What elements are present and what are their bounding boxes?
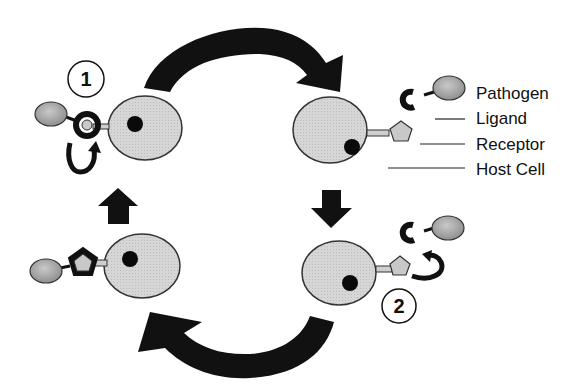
pathogen xyxy=(30,259,62,283)
host-cell xyxy=(302,241,376,305)
pathogen xyxy=(433,76,465,100)
ligand-c xyxy=(403,92,414,108)
stage-bottom-right: 2 xyxy=(302,216,464,323)
pathogen xyxy=(35,102,67,126)
nucleus xyxy=(342,275,358,291)
cycle-diagram: 1 Pathogen Ligand Receptor Host Cell 2 xyxy=(0,0,588,385)
receptor-pentagon xyxy=(390,256,410,275)
receptor-stalk xyxy=(376,266,392,272)
legend-receptor: Receptor xyxy=(476,135,545,154)
legend-host-cell: Host Cell xyxy=(476,160,545,179)
bottom-curved-arrow xyxy=(138,312,334,378)
legend-ligand: Ligand xyxy=(476,109,527,128)
receptor-head xyxy=(82,120,92,130)
nucleus xyxy=(122,251,138,267)
down-arrow xyxy=(311,190,352,228)
up-arrow xyxy=(98,188,138,224)
release-arrow-icon xyxy=(69,143,95,172)
legend: Pathogen Ligand Receptor Host Cell xyxy=(388,84,549,179)
host-cell xyxy=(108,96,182,160)
ligand-c xyxy=(403,225,414,241)
receptor-pentagon xyxy=(390,121,412,141)
nucleus xyxy=(344,139,360,155)
pathogen xyxy=(432,216,464,240)
top-curved-arrow xyxy=(144,28,343,92)
stage-bottom-left xyxy=(30,234,180,298)
legend-pathogen: Pathogen xyxy=(476,84,549,103)
nucleus xyxy=(127,116,143,132)
receptor-stalk xyxy=(367,130,389,136)
host-cell xyxy=(104,234,180,298)
step-2-label: 2 xyxy=(393,295,404,317)
step-1-label: 1 xyxy=(80,68,91,90)
